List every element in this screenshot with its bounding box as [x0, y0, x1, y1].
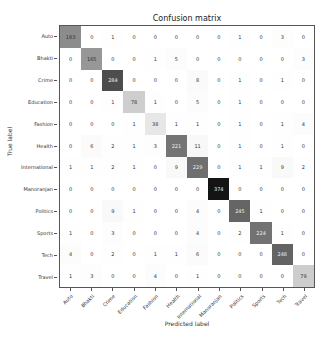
- matrix-cell: 0: [293, 26, 314, 48]
- chart-title: Confusion matrix: [59, 14, 315, 23]
- matrix-cell: 0: [81, 26, 102, 48]
- matrix-cell: 4: [187, 222, 208, 244]
- matrix-cell: 1: [81, 157, 102, 179]
- matrix-cell: 0: [293, 91, 314, 113]
- matrix-cell: 0: [229, 48, 250, 70]
- matrix-cell: 0: [123, 265, 144, 287]
- matrix-cell: 0: [250, 265, 271, 287]
- matrix-cell: 5: [166, 48, 187, 70]
- matrix-cell: 0: [123, 70, 144, 92]
- matrix-cell: 0: [123, 178, 144, 200]
- matrix-cell: 374: [208, 178, 229, 200]
- matrix-cell: 0: [60, 113, 81, 135]
- matrix-cell: 0: [229, 244, 250, 266]
- matrix-cell: 0: [229, 265, 250, 287]
- y-tick-label: International: [0, 156, 57, 178]
- matrix-cell: 0: [145, 26, 166, 48]
- y-tick-label: Sports: [0, 222, 57, 244]
- matrix-cell: 1: [102, 26, 123, 48]
- matrix-cell: 0: [166, 91, 187, 113]
- matrix-cell: 78: [123, 91, 144, 113]
- x-tick-label: Tech: [275, 293, 287, 305]
- matrix-cell: 0: [81, 222, 102, 244]
- y-tick-label: Fashion: [0, 113, 57, 135]
- matrix-cell: 0: [102, 48, 123, 70]
- matrix-cell: 0: [123, 26, 144, 48]
- y-tick-label: Education: [0, 91, 57, 113]
- matrix-cell: 1: [272, 135, 293, 157]
- matrix-cell: 1: [166, 244, 187, 266]
- x-tick: Fashion: [144, 288, 165, 318]
- y-axis-tick-labels: AutoBhaktiCrimeEducationFashionHealthInt…: [0, 25, 57, 288]
- matrix-cell: 0: [293, 244, 314, 266]
- matrix-cell: 1: [187, 265, 208, 287]
- x-tick-label: Bhakti: [80, 293, 96, 309]
- matrix-cell: 0: [208, 244, 229, 266]
- matrix-cell: 1: [272, 113, 293, 135]
- matrix-cell: 0: [145, 178, 166, 200]
- x-tick: Sports: [251, 288, 272, 318]
- y-tick-label: Travel: [0, 266, 57, 288]
- matrix-cell: 0: [81, 70, 102, 92]
- matrix-cell: 3: [293, 48, 314, 70]
- matrix-cell: 0: [187, 178, 208, 200]
- matrix-cell: 0: [60, 135, 81, 157]
- confusion-matrix-grid: 1830100000103001650015000003002840008010…: [59, 25, 315, 288]
- x-tick: Tech: [272, 288, 293, 318]
- matrix-cell: 0: [123, 244, 144, 266]
- matrix-cell: 0: [229, 178, 250, 200]
- x-tick: Education: [123, 288, 144, 318]
- x-axis-tick-labels: AutoBhaktiCrimeEducationFashionHealthInt…: [59, 288, 315, 318]
- matrix-cell: 1: [229, 91, 250, 113]
- matrix-cell: 0: [166, 200, 187, 222]
- matrix-cell: 0: [60, 91, 81, 113]
- matrix-cell: 0: [293, 200, 314, 222]
- matrix-cell: 1: [145, 244, 166, 266]
- matrix-cell: 5: [187, 91, 208, 113]
- matrix-cell: 1: [123, 200, 144, 222]
- matrix-cell: 0: [250, 135, 271, 157]
- x-tick: Manoranjan: [208, 288, 229, 318]
- matrix-cell: 0: [187, 26, 208, 48]
- y-tick-label: Bhakti: [0, 47, 57, 69]
- matrix-cell: 2: [102, 244, 123, 266]
- matrix-cell: 0: [208, 26, 229, 48]
- matrix-cell: 0: [166, 26, 187, 48]
- matrix-cell: 0: [187, 48, 208, 70]
- matrix-cell: 4: [145, 265, 166, 287]
- x-tick: Politics: [230, 288, 251, 318]
- matrix-cell: 38: [145, 113, 166, 135]
- matrix-cell: 3: [145, 135, 166, 157]
- matrix-cell: 1: [229, 26, 250, 48]
- matrix-cell: 0: [81, 113, 102, 135]
- matrix-cell: 0: [60, 200, 81, 222]
- matrix-cell: 0: [250, 178, 271, 200]
- matrix-cell: 1: [250, 157, 271, 179]
- x-tick-label: Sports: [250, 293, 266, 309]
- matrix-cell: 0: [166, 70, 187, 92]
- matrix-cell: 0: [81, 91, 102, 113]
- matrix-cell: 1: [123, 157, 144, 179]
- matrix-cell: 0: [293, 178, 314, 200]
- y-tick-label: Manoranjan: [0, 178, 57, 200]
- matrix-cell: 0: [208, 48, 229, 70]
- matrix-cell: 0: [81, 200, 102, 222]
- matrix-cell: 1: [123, 135, 144, 157]
- x-tick-label: Travel: [294, 293, 309, 308]
- matrix-cell: 1: [60, 265, 81, 287]
- matrix-cell: 6: [81, 135, 102, 157]
- matrix-cell: 4: [60, 244, 81, 266]
- matrix-cell: 0: [166, 178, 187, 200]
- matrix-cell: 245: [229, 200, 250, 222]
- y-tick-label: Crime: [0, 69, 57, 91]
- matrix-cell: 0: [145, 200, 166, 222]
- matrix-cell: 0: [208, 157, 229, 179]
- matrix-cell: 1: [272, 70, 293, 92]
- matrix-cell: 0: [102, 265, 123, 287]
- matrix-cell: 1: [145, 91, 166, 113]
- x-tick-label: Fashion: [142, 293, 160, 311]
- matrix-cell: 4: [293, 113, 314, 135]
- x-tick: Travel: [294, 288, 315, 318]
- matrix-cell: 6: [187, 244, 208, 266]
- matrix-cell: 1: [145, 48, 166, 70]
